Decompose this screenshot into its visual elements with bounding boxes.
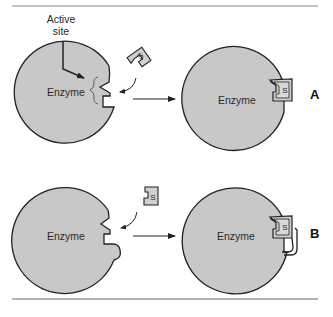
binding-curve-arrow-a <box>120 78 136 92</box>
enzyme-substrate-diagram: Enzyme Active site S Enzyme S A Enzyme S… <box>0 0 333 317</box>
substrate-b-floating: S <box>144 187 158 205</box>
enzyme-label: Enzyme <box>47 230 85 242</box>
substrate-label: S <box>282 223 287 232</box>
active-site-label-line2: site <box>53 25 70 37</box>
enzyme-label: Enzyme <box>217 230 255 242</box>
panel-label-a: A <box>310 87 320 102</box>
substrate-label: S <box>282 86 287 95</box>
enzyme-label: Enzyme <box>47 86 85 98</box>
substrate-a-floating: S <box>127 47 151 70</box>
binding-curve-arrow-b <box>121 212 137 228</box>
substrate-label: S <box>150 193 155 202</box>
active-site-label-line1: Active <box>47 13 76 25</box>
enzyme-label: Enzyme <box>218 94 256 106</box>
panel-label-b: B <box>310 226 319 241</box>
